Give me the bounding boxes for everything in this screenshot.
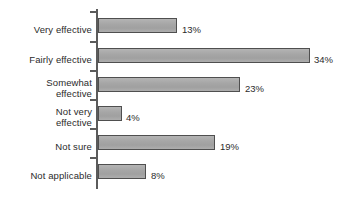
bar[interactable] (98, 106, 122, 121)
category-label: Fairly effective (0, 54, 92, 65)
bar-value-label: 23% (245, 83, 264, 94)
bar[interactable] (98, 48, 310, 63)
bar-value-label: 19% (220, 141, 239, 152)
category-label: Not very effective (0, 106, 92, 128)
bar-row: Not applicable 8% (0, 161, 351, 191)
bar-value-label: 34% (314, 54, 333, 65)
plot-area: Very effective 13% Fairly effective 34% … (0, 0, 351, 202)
bar-row: Very effective 13% (0, 15, 351, 45)
bar-value-label: 4% (126, 112, 140, 123)
bar[interactable] (98, 135, 215, 150)
bar-row: Not very effective 4% (0, 103, 351, 133)
bar-value-label: 8% (151, 170, 165, 181)
bar-row: Somewhat effective 23% (0, 74, 351, 104)
bar[interactable] (98, 18, 177, 33)
bar-value-label: 13% (182, 24, 201, 35)
category-label: Somewhat effective (0, 77, 92, 99)
bar[interactable] (98, 77, 240, 92)
bar-row: Fairly effective 34% (0, 45, 351, 75)
category-label: Not applicable (0, 170, 92, 181)
bar-row: Not sure 19% (0, 132, 351, 162)
category-label: Very effective (0, 24, 92, 35)
category-label: Not sure (0, 141, 92, 152)
bar[interactable] (98, 164, 146, 179)
axis-tick (90, 11, 97, 13)
bar-chart: Very effective 13% Fairly effective 34% … (0, 0, 351, 202)
